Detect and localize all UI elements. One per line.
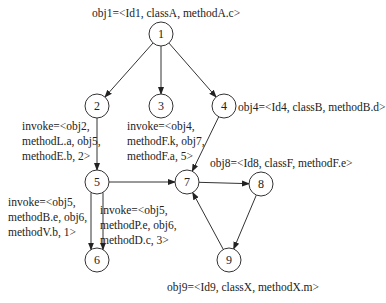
edge-7-8 <box>199 182 249 183</box>
line: methodD.c, 3> <box>100 233 177 248</box>
node-8: 8 <box>249 172 273 196</box>
svg-text:2: 2 <box>94 99 100 113</box>
svg-text:6: 6 <box>94 253 100 267</box>
line: methodV.b, 1> <box>8 225 87 240</box>
obj1-annotation: obj1=<Id1, classA, methodA.c> <box>92 6 240 21</box>
line: methodB.e, obj6, <box>8 210 87 225</box>
svg-text:1: 1 <box>158 27 164 41</box>
node-5: 5 <box>85 170 109 194</box>
node-3: 3 <box>149 94 173 118</box>
invoke-5-6b-annotation: invoke=<obj5, methodP.e, obj6, methodD.c… <box>100 203 177 248</box>
line: invoke=<obj5, <box>100 203 177 218</box>
svg-text:7: 7 <box>184 175 190 189</box>
line: methodL.a, obj5, <box>22 134 101 149</box>
svg-text:5: 5 <box>94 175 100 189</box>
node-4: 4 <box>212 94 236 118</box>
edge-9-7 <box>193 193 224 250</box>
node-6: 6 <box>85 248 109 272</box>
node-1: 1 <box>149 22 173 46</box>
edge-1-4 <box>169 43 216 97</box>
invoke-5-6a-annotation: invoke=<obj5, methodB.e, obj6, methodV.b… <box>8 195 87 240</box>
line: methodF.a, 5> <box>127 149 205 164</box>
svg-text:8: 8 <box>258 177 264 191</box>
svg-text:9: 9 <box>226 253 232 267</box>
node-7: 7 <box>175 170 199 194</box>
node-2: 2 <box>85 94 109 118</box>
invoke-4-7-annotation: invoke=<obj4, methodF.k, obj7, methodF.a… <box>127 119 205 164</box>
node-9: 9 <box>217 248 241 272</box>
line: invoke=<obj5, <box>8 195 87 210</box>
line: invoke=<obj2, <box>22 119 101 134</box>
edge-1-2 <box>105 43 153 97</box>
invoke-2-5-annotation: invoke=<obj2, methodL.a, obj5, methodE.b… <box>22 119 101 164</box>
svg-text:4: 4 <box>221 99 227 113</box>
obj9-annotation: obj9=<Id9, classX, methodX.m> <box>167 280 319 295</box>
line: methodF.k, obj7, <box>127 134 205 149</box>
obj8-annotation: obj8=<Id8, classF, methodF.e> <box>210 156 353 171</box>
obj4-annotation: obj4=<Id4, classB, methodB.d> <box>238 100 386 115</box>
line: methodP.e, obj6, <box>100 218 177 233</box>
edge-8-9 <box>234 195 257 249</box>
line: invoke=<obj4, <box>127 119 205 134</box>
svg-text:3: 3 <box>158 99 164 113</box>
line: methodE.b, 2> <box>22 149 101 164</box>
